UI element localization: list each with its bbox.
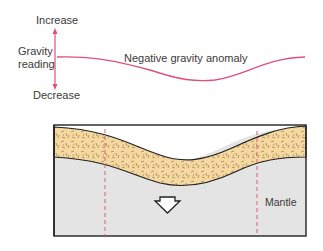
decrease-label: Decrease [33, 89, 80, 102]
diagram-canvas [0, 0, 323, 251]
mantle-label: Mantle [265, 196, 297, 209]
increase-label: Increase [36, 14, 78, 27]
cross-section [54, 125, 306, 236]
gravity-label-line2: reading [18, 58, 55, 71]
arrow-up-icon [53, 28, 58, 34]
gravity-label-line1: Gravity [18, 45, 53, 58]
negative-anomaly-label: Negative gravity anomaly [124, 52, 248, 65]
